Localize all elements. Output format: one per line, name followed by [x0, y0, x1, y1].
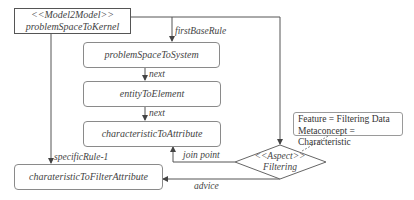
node-name: charateristicToFilterAttribute [29, 171, 148, 183]
node-name: entityToElement [120, 88, 185, 100]
next-label-2: next [149, 108, 165, 119]
advice-label: advice [194, 181, 219, 192]
next-label-1: next [149, 69, 165, 80]
specific-rule-label: specificRule-1 [54, 152, 108, 163]
node-name: Filtering [245, 162, 315, 173]
characteristic-to-attribute-node[interactable]: characteristicToAttribute [83, 121, 221, 147]
join-point-label: join point [183, 150, 220, 161]
first-base-rule-label: firstBaseRule [175, 26, 226, 37]
node-name: problemSpaceToSystem [104, 49, 198, 61]
node-name: characteristicToAttribute [102, 128, 203, 140]
aspect-filtering-node[interactable]: <<Aspect>> Filtering [245, 151, 315, 173]
charateristic-to-filter-attribute-node[interactable]: charateristicToFilterAttribute [14, 164, 163, 190]
node-name: problemSpaceToKernel [26, 21, 120, 33]
feature-note: Feature = Filtering Data Metaconcept = C… [293, 112, 403, 136]
problem-space-to-kernel-node[interactable]: <<Model2Model>> problemSpaceToKernel [14, 8, 131, 34]
note-line-metaconcept: Metaconcept = Characteristic [298, 126, 398, 149]
note-line-feature: Feature = Filtering Data [298, 114, 398, 126]
problem-space-to-system-node[interactable]: problemSpaceToSystem [83, 42, 220, 68]
stereotype-label: <<Aspect>> [245, 151, 315, 162]
entity-to-element-node[interactable]: entityToElement [83, 81, 221, 107]
stereotype-label: <<Model2Model>> [31, 9, 114, 21]
